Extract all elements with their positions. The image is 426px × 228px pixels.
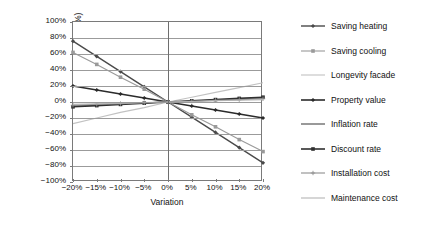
data-point-marker	[311, 147, 315, 151]
data-point-marker	[190, 104, 194, 108]
data-point-marker	[95, 63, 99, 67]
x-axis-tick-label: −10%	[109, 183, 130, 192]
legend-swatch-icon	[300, 68, 326, 82]
data-point-marker	[118, 92, 122, 96]
data-point-marker	[142, 87, 146, 91]
legend-label: Longevity facade	[331, 70, 395, 80]
x-axis-tick-label: −5%	[135, 183, 151, 192]
x-axis-tick-mark	[144, 179, 145, 182]
chart-figure: NPV (€/mq.) variation (%) 100%80%60%40%2…	[0, 0, 426, 228]
x-axis-tick-labels: −20%−15%−10%−5%0%5%10%15%20%	[72, 183, 262, 197]
x-axis-tick-label: 20%	[254, 183, 270, 192]
data-point-marker	[261, 116, 265, 120]
y-axis-tick-mark	[70, 102, 73, 103]
data-point-marker	[237, 112, 241, 116]
gridline-horizontal	[73, 70, 261, 71]
legend-item[interactable]: Inflation rate	[300, 116, 378, 132]
legend-swatch-icon	[300, 93, 326, 107]
legend-swatch-icon	[300, 166, 326, 180]
legend-item[interactable]: Saving heating	[300, 18, 387, 34]
y-axis-tick-label: −80%	[45, 161, 66, 169]
x-axis-tick-label: 10%	[206, 183, 222, 192]
x-axis-tick-mark	[263, 179, 264, 182]
plot-area	[72, 21, 262, 181]
chart-legend: Saving heatingSaving coolingLongevity fa…	[300, 18, 426, 210]
x-axis-tick-mark	[239, 179, 240, 182]
y-axis-tick-label: 0%	[54, 97, 66, 105]
legend-item[interactable]: Longevity facade	[300, 67, 395, 83]
x-axis-tick-label: 5%	[185, 183, 197, 192]
legend-swatch-icon	[300, 117, 326, 131]
y-axis-tick-mark	[70, 22, 73, 23]
legend-swatch-icon	[300, 191, 326, 205]
y-axis-tick-label: −60%	[45, 145, 66, 153]
y-axis-tick-label: 20%	[50, 81, 66, 89]
x-axis-tick-label: −20%	[62, 183, 83, 192]
legend-item[interactable]: Property value	[300, 92, 386, 108]
legend-label: Installation cost	[331, 168, 390, 178]
data-point-marker	[214, 125, 218, 129]
y-axis-tick-mark	[70, 38, 73, 39]
y-axis-tick-mark	[70, 118, 73, 119]
gridline-horizontal	[73, 166, 261, 167]
data-point-marker	[311, 171, 315, 175]
y-axis-tick-mark	[70, 54, 73, 55]
gridline-horizontal	[73, 38, 261, 39]
y-axis-tick-label: 80%	[50, 33, 66, 41]
y-axis-tick-labels: 100%80%60%40%20%0%−20%−40%−60%−80%−100%	[16, 21, 70, 181]
x-axis-tick-mark	[168, 179, 169, 182]
gridline-horizontal	[73, 86, 261, 87]
legend-swatch-icon	[300, 142, 326, 156]
data-point-marker	[142, 96, 146, 100]
data-point-marker	[119, 75, 123, 79]
legend-swatch-icon	[300, 19, 326, 33]
legend-label: Property value	[331, 95, 386, 105]
y-axis-tick-label: 100%	[46, 17, 66, 25]
data-point-marker	[311, 97, 315, 101]
x-axis-tick-mark	[216, 179, 217, 182]
data-point-marker	[237, 138, 241, 142]
data-point-marker	[213, 108, 217, 112]
data-point-marker	[311, 24, 315, 28]
legend-item[interactable]: Discount rate	[300, 141, 381, 157]
data-point-marker	[95, 88, 99, 92]
legend-item[interactable]: Saving cooling	[300, 43, 386, 59]
x-axis-tick-mark	[73, 179, 74, 182]
y-axis-tick-label: 40%	[50, 65, 66, 73]
gridline-horizontal	[73, 54, 261, 55]
gridline-horizontal	[73, 118, 261, 119]
y-axis-tick-label: 60%	[50, 49, 66, 57]
gridline-horizontal	[73, 134, 261, 135]
legend-label: Maintenance cost	[331, 193, 398, 203]
legend-item[interactable]: Installation cost	[300, 165, 390, 181]
legend-label: Inflation rate	[331, 119, 378, 129]
gridline-horizontal	[73, 102, 261, 103]
data-point-marker	[261, 150, 265, 154]
legend-label: Saving heating	[331, 21, 387, 31]
y-axis-tick-mark	[70, 150, 73, 151]
legend-label: Saving cooling	[331, 46, 386, 56]
y-axis-tick-mark	[70, 70, 73, 71]
x-axis-tick-mark	[97, 179, 98, 182]
data-point-marker	[311, 49, 315, 53]
y-axis-tick-mark	[70, 134, 73, 135]
zero-reference-line	[168, 22, 169, 180]
gridline-horizontal	[73, 150, 261, 151]
data-point-marker	[190, 113, 194, 117]
y-axis-tick-mark	[70, 166, 73, 167]
x-axis-tick-label: 0%	[161, 183, 173, 192]
y-axis-tick-mark	[70, 86, 73, 87]
x-axis-tick-label: 15%	[230, 183, 246, 192]
x-axis-tick-mark	[121, 179, 122, 182]
y-axis-tick-label: −20%	[45, 113, 66, 121]
x-axis-title: Variation	[72, 197, 262, 207]
x-axis-tick-mark	[192, 179, 193, 182]
y-axis-tick-label: −40%	[45, 129, 66, 137]
legend-label: Discount rate	[331, 144, 381, 154]
legend-item[interactable]: Maintenance cost	[300, 190, 398, 206]
x-axis-tick-label: −15%	[85, 183, 106, 192]
legend-swatch-icon	[300, 44, 326, 58]
